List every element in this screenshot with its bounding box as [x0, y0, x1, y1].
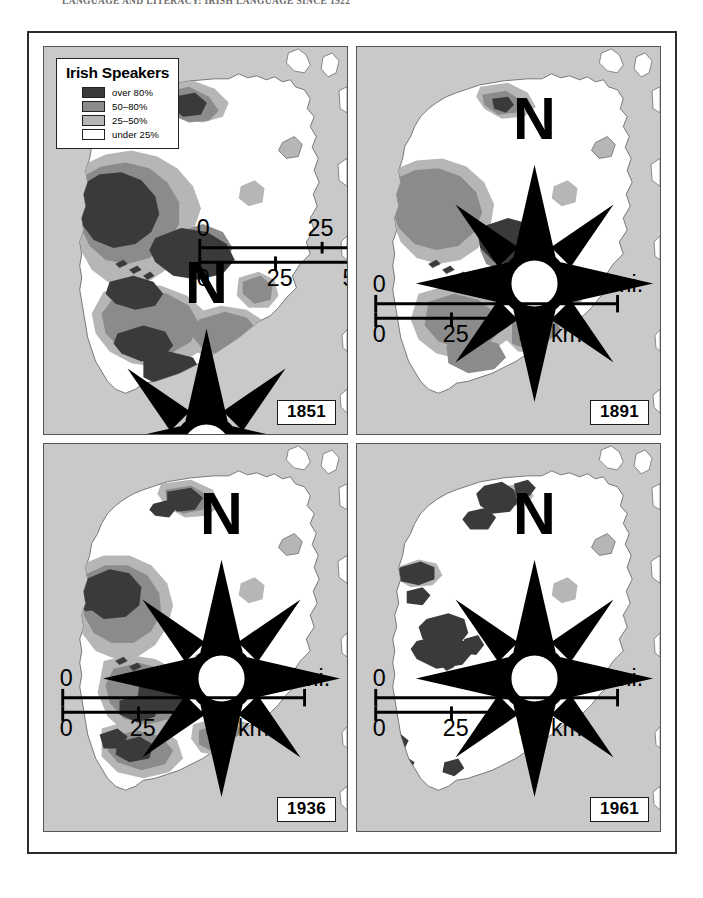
legend-label-25-50: 25–50%: [112, 115, 147, 126]
scale-mi-tick-0: 0: [373, 665, 386, 691]
scale-mi-tick-50: 50 mi.: [267, 665, 330, 691]
scale-km-tick-25: 25: [130, 715, 156, 741]
legend-label-over-80: over 80%: [112, 87, 153, 98]
year-label-1891: 1891: [590, 400, 649, 425]
legend-item-25-50: 25–50%: [65, 114, 169, 126]
legend-swatch-over-80: [82, 87, 105, 98]
year-label-1851: 1851: [277, 400, 336, 425]
map-panel-grid: Irish Speakers over 80% 50–80% 25–50% un…: [43, 46, 661, 840]
scalebar-1891: 0 25 50 mi. 0 25 50 km: [367, 116, 661, 435]
scale-mi-tick-25: 25: [484, 271, 510, 297]
scale-mi-tick-25: 25: [171, 665, 197, 691]
scale-mi-tick-50: 50 mi.: [580, 665, 643, 691]
scale-mi-tick-0: 0: [373, 271, 386, 297]
scale-mi-tick-50: 50 mi.: [580, 271, 643, 297]
legend: Irish Speakers over 80% 50–80% 25–50% un…: [56, 58, 179, 149]
scalebar-1936: 0 25 50 mi. 0 25 50 km: [54, 510, 348, 832]
figure-frame: Irish Speakers over 80% 50–80% 25–50% un…: [27, 31, 677, 854]
legend-item-under-25: under 25%: [65, 128, 169, 140]
scale-mi-tick-25: 25: [484, 665, 510, 691]
scale-mi-tick-0: 0: [60, 665, 73, 691]
scale-km-tick-25: 25: [443, 715, 469, 741]
map-panel-1961[interactable]: N 0 25 50 mi.: [356, 443, 661, 832]
legend-swatch-50-80: [82, 101, 105, 112]
legend-swatch-25-50: [82, 115, 105, 126]
map-panel-1891[interactable]: N 0 25 50 mi.: [356, 46, 661, 435]
map-panel-1936[interactable]: N 0 25 50 mi.: [43, 443, 348, 832]
scalebar-1961: 0 25 50 mi. 0 25 50 km: [367, 510, 661, 832]
legend-item-over-80: over 80%: [65, 86, 169, 98]
map-panel-1851[interactable]: Irish Speakers over 80% 50–80% 25–50% un…: [43, 46, 348, 435]
compass-north-label: N: [185, 249, 228, 316]
scale-km-tick-25: 25: [443, 321, 469, 347]
legend-swatch-under-25: [82, 129, 105, 140]
legend-item-50-80: 50–80%: [65, 100, 169, 112]
running-head: LANGUAGE AND LITERACY: IRISH LANGUAGE SI…: [62, 0, 350, 8]
legend-label-50-80: 50–80%: [112, 101, 147, 112]
legend-label-under-25: under 25%: [112, 129, 159, 140]
year-label-1936: 1936: [277, 797, 336, 822]
year-label-1961: 1961: [590, 797, 649, 822]
legend-title: Irish Speakers: [66, 64, 169, 82]
